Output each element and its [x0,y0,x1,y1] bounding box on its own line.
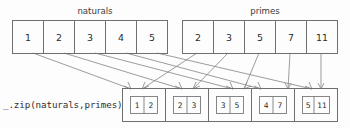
result-pair-0: 1 2 [131,97,158,114]
naturals-cell-4: 5 [149,32,155,43]
naturals-cell-0: 1 [25,32,31,43]
diagram-canvas: naturals primes [0,0,350,128]
primes-cell-2: 5 [257,32,263,43]
zip-operation-label: _.zip(naturals,primes) [3,99,123,110]
arrowhead-naturals-3 [226,82,233,89]
primes-cell-0: 2 [195,32,201,43]
result-pair-1: 2 3 [174,97,201,114]
primes-array-label: primes [250,6,280,16]
result-pair-2: 3 5 [217,97,244,114]
connector-primes-2 [193,53,228,89]
result-pair-4-left: 5 [306,101,311,110]
result-pair-4-right: 11 [317,101,327,110]
naturals-array-label: naturals [77,6,113,16]
primes-cell-4: 11 [316,32,328,43]
result-pair-0-left: 1 [135,101,140,110]
connector-primes-1 [142,53,197,89]
arrowhead-naturals-1 [124,82,131,89]
result-pair-1-right: 3 [191,101,196,110]
arrowhead-naturals-4 [254,82,261,89]
result-pair-3-left: 4 [264,101,269,110]
arrowhead-naturals-2 [175,82,182,89]
naturals-cell-3: 4 [118,32,124,43]
result-array: 1 2 2 3 3 5 4 7 [123,89,338,122]
connector-naturals-4 [126,53,261,89]
naturals-cell-2: 3 [87,32,93,43]
naturals-array: 1 2 3 4 5 [13,21,168,54]
primes-cell-3: 7 [288,32,294,43]
zip-diagram-page: naturals primes [0,0,350,128]
result-pair-2-right: 5 [234,101,239,110]
result-pair-3-right: 7 [277,101,282,110]
result-pair-2-left: 3 [221,101,226,110]
result-pair-0-right: 2 [148,101,153,110]
primes-cell-1: 3 [226,32,232,43]
result-pair-1-left: 2 [178,101,183,110]
primes-array: 2 3 5 7 11 [183,21,338,54]
result-pair-4: 5 11 [303,97,330,114]
naturals-connectors [33,53,312,89]
primes-connectors [142,53,321,89]
result-pair-3: 4 7 [260,97,287,114]
naturals-cell-1: 2 [56,32,62,43]
